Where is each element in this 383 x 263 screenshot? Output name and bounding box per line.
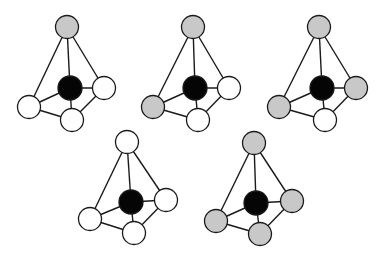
atom-left-gray — [205, 210, 228, 233]
atom-right-white — [218, 77, 241, 100]
atom-right-white — [155, 189, 178, 212]
atom-left-gray — [142, 96, 165, 119]
central-atom — [119, 190, 143, 214]
atom-left-gray — [268, 96, 291, 119]
molecule-1 — [18, 16, 116, 132]
central-atom — [183, 76, 207, 100]
central-atom — [310, 76, 334, 100]
atom-top-white — [116, 131, 139, 154]
atom-right-gray — [345, 77, 368, 100]
molecule-3 — [268, 16, 368, 132]
atom-top-gray — [243, 132, 266, 155]
molecule-2 — [142, 16, 241, 132]
central-atom — [244, 191, 268, 215]
central-atom — [58, 76, 82, 100]
atom-top-gray — [308, 16, 331, 39]
atom-left-white — [18, 96, 41, 119]
atom-bottom-white — [123, 222, 146, 245]
atom-left-white — [79, 208, 102, 231]
atom-right-white — [93, 77, 116, 100]
atom-bottom-white — [187, 109, 210, 132]
atom-bottom-white — [61, 109, 84, 132]
atom-bottom-gray — [249, 223, 272, 246]
atom-right-gray — [281, 190, 304, 213]
diagram-canvas — [0, 0, 383, 263]
molecules-diagram — [0, 0, 383, 263]
molecule-5 — [205, 132, 304, 246]
atom-top-gray — [182, 16, 205, 39]
atom-bottom-white — [314, 109, 337, 132]
atom-top-gray — [56, 16, 79, 39]
molecule-4 — [79, 131, 178, 245]
